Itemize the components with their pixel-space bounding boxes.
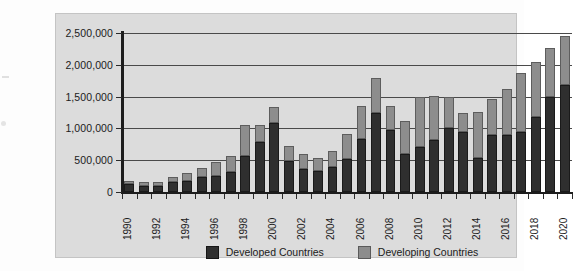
bar-segment-developing bbox=[415, 97, 425, 147]
x-axis-tick bbox=[209, 194, 210, 199]
x-axis-tick bbox=[151, 194, 152, 199]
bar-stack bbox=[182, 173, 192, 192]
bar-segment-developing bbox=[124, 181, 134, 184]
x-axis-tick-label: 2000 bbox=[267, 218, 278, 240]
y-axis-tick bbox=[116, 160, 122, 161]
x-axis-tick bbox=[412, 194, 413, 199]
x-axis-tick-label: 2004 bbox=[325, 218, 336, 240]
bar-stack bbox=[211, 162, 221, 192]
bar-stack bbox=[429, 96, 439, 192]
page-margin-artifact-dash bbox=[2, 76, 9, 78]
bar-stack bbox=[197, 168, 207, 192]
bar-segment-developed bbox=[124, 184, 134, 192]
bar-segment-developing bbox=[386, 106, 396, 130]
x-axis-ticks bbox=[122, 194, 572, 199]
x-axis-tick bbox=[427, 194, 428, 199]
x-axis-tick bbox=[122, 194, 123, 199]
legend-swatch-developing-icon bbox=[358, 246, 371, 259]
y-axis-tick bbox=[116, 65, 122, 66]
bar-stack bbox=[458, 113, 468, 193]
x-axis-tick bbox=[514, 194, 515, 199]
legend-swatch-developed-icon bbox=[206, 246, 219, 259]
bar-stack bbox=[313, 158, 323, 192]
x-axis-tick bbox=[296, 194, 297, 199]
bar-segment-developed bbox=[226, 172, 236, 192]
legend-label-developed: Developed Countries bbox=[226, 246, 324, 258]
bar-segment-developed bbox=[182, 181, 192, 192]
x-axis-tick-label: 2006 bbox=[355, 218, 366, 240]
bar-stack bbox=[487, 99, 497, 192]
x-axis-tick-label: 1998 bbox=[238, 218, 249, 240]
x-axis-tick bbox=[311, 194, 312, 199]
bar-stack bbox=[415, 97, 425, 192]
bar-segment-developed bbox=[444, 128, 454, 192]
x-axis-tick bbox=[224, 194, 225, 199]
y-axis-tick-label: 2,000,000 bbox=[65, 59, 113, 71]
y-axis-tick-label: 1,000,000 bbox=[65, 122, 113, 134]
bar-stack bbox=[284, 146, 294, 192]
bar-segment-developed bbox=[240, 156, 250, 192]
x-axis-tick bbox=[267, 194, 268, 199]
bar-segment-developing bbox=[487, 99, 497, 135]
legend-label-developing: Developing Countries bbox=[378, 246, 478, 258]
x-axis-labels: 1990199219941996199820002002200420062008… bbox=[122, 200, 572, 240]
bar-segment-developing bbox=[545, 48, 555, 96]
bar-stack bbox=[299, 154, 309, 192]
bar-segment-developed bbox=[487, 135, 497, 192]
x-axis-tick bbox=[253, 194, 254, 199]
bar-segment-developed bbox=[139, 186, 149, 192]
bar-stack bbox=[473, 112, 483, 192]
bar-stack bbox=[531, 62, 541, 192]
y-axis-tick bbox=[116, 97, 122, 98]
bar-segment-developed bbox=[357, 139, 367, 192]
bar-segment-developing bbox=[342, 134, 352, 159]
x-axis-tick-label: 1990 bbox=[122, 218, 133, 240]
bar-stack bbox=[226, 156, 236, 192]
bar-segment-developing bbox=[560, 36, 570, 85]
bar-segment-developing bbox=[371, 78, 381, 114]
chart-legend: Developed Countries Developing Countries bbox=[111, 242, 573, 262]
bar-segment-developing bbox=[139, 182, 149, 185]
bar-stack bbox=[502, 89, 512, 192]
bar-stack bbox=[124, 181, 134, 192]
bar-segment-developing bbox=[299, 154, 309, 170]
bar-segment-developing bbox=[328, 151, 338, 166]
bar-segment-developed bbox=[284, 161, 294, 192]
bar-segment-developed bbox=[386, 130, 396, 192]
x-axis-tick-label: 2018 bbox=[529, 218, 540, 240]
bar-segment-developed bbox=[211, 176, 221, 192]
bar-segment-developing bbox=[153, 182, 163, 185]
bar-segment-developed bbox=[560, 85, 570, 192]
bar-stack bbox=[545, 48, 555, 192]
bar-segment-developing bbox=[226, 156, 236, 172]
bar-segment-developing bbox=[313, 158, 323, 171]
bar-segment-developed bbox=[328, 167, 338, 192]
x-axis-tick bbox=[470, 194, 471, 199]
y-axis-tick-label: 2,500,000 bbox=[65, 27, 113, 39]
bar-stack bbox=[444, 97, 454, 192]
bar-segment-developing bbox=[240, 125, 250, 156]
legend-item-developed: Developed Countries bbox=[206, 246, 324, 259]
x-axis-tick bbox=[166, 194, 167, 199]
x-axis-tick bbox=[528, 194, 529, 199]
bar-segment-developing bbox=[400, 121, 410, 154]
y-axis-tick bbox=[116, 128, 122, 129]
bar-segment-developing bbox=[429, 96, 439, 140]
x-axis-tick bbox=[456, 194, 457, 199]
x-axis-tick bbox=[398, 194, 399, 199]
x-axis-tick bbox=[238, 194, 239, 199]
bar-segment-developed bbox=[458, 132, 468, 192]
bar-segment-developed bbox=[502, 135, 512, 192]
bar-segment-developed bbox=[269, 123, 279, 192]
bar-segment-developing bbox=[531, 62, 541, 117]
bar-stack bbox=[560, 36, 570, 192]
y-axis-tick-label: 500,000 bbox=[74, 154, 113, 166]
bar-stack bbox=[357, 106, 367, 192]
bar-segment-developing bbox=[284, 146, 294, 161]
bar-segment-developing bbox=[444, 97, 454, 128]
x-axis-tick-label: 2002 bbox=[296, 218, 307, 240]
bar-segment-developing bbox=[197, 168, 207, 178]
y-axis-tick bbox=[116, 192, 122, 193]
bar-segment-developed bbox=[371, 113, 381, 192]
